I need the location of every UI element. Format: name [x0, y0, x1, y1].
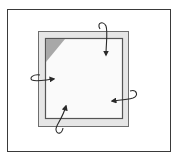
rotation-diagram — [0, 0, 181, 164]
inner-square — [46, 39, 123, 119]
